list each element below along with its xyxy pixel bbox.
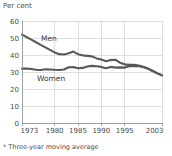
x-tick-label: 1980 (46, 127, 64, 135)
y-tick-label: 0 (15, 120, 19, 128)
line-chart-plot: 0102030405060 197319801985199019952003 M… (0, 0, 172, 140)
x-axis-tick-labels: 197319801985199019952003 (21, 127, 164, 135)
x-tick-label: 1995 (116, 127, 134, 135)
y-tick-label: 60 (10, 18, 19, 26)
y-tick-label: 30 (10, 69, 19, 77)
y-axis-tick-labels: 0102030405060 (10, 18, 19, 128)
series-label-men: Men (41, 34, 57, 43)
x-tick-label: 1990 (92, 127, 110, 135)
x-tick-label: 2003 (146, 127, 164, 135)
series-label-women: Women (37, 74, 65, 83)
x-tick-label: 1985 (69, 127, 87, 135)
series-inline-labels: MenWomen (37, 34, 65, 83)
y-tick-label: 10 (10, 103, 19, 111)
chart-container: Per cent 0102030405060 19731980198519901… (0, 0, 172, 156)
y-tick-label: 40 (10, 52, 19, 60)
x-tick-label: 1973 (21, 127, 39, 135)
y-tick-label: 50 (10, 35, 19, 43)
chart-footnote: * Three-year moving average (3, 143, 99, 152)
y-tick-label: 20 (10, 86, 19, 94)
